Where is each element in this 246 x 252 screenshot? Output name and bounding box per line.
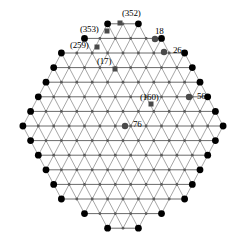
lattice-edge bbox=[131, 184, 139, 199]
lattice-edge bbox=[131, 68, 139, 83]
lattice-edge bbox=[92, 155, 100, 170]
lattice-edge bbox=[154, 82, 162, 97]
interior-vertex bbox=[152, 110, 155, 113]
interior-vertex bbox=[60, 139, 63, 142]
lattice-edge bbox=[169, 53, 177, 68]
lattice-edge bbox=[46, 97, 54, 112]
lattice-edge bbox=[85, 170, 93, 185]
lattice-edge bbox=[154, 111, 162, 126]
interior-vertex bbox=[168, 81, 171, 84]
lattice-edge bbox=[138, 184, 146, 199]
interior-vertex bbox=[168, 110, 171, 113]
lattice-edge bbox=[108, 126, 116, 141]
boundary-vertex bbox=[204, 152, 211, 159]
interior-vertex bbox=[206, 125, 209, 128]
lattice-edge bbox=[146, 82, 154, 97]
lattice-edge bbox=[177, 141, 185, 156]
lattice-edge bbox=[154, 155, 162, 170]
interior-vertex bbox=[91, 168, 94, 171]
interior-vertex bbox=[114, 95, 117, 98]
interior-vertex bbox=[199, 110, 202, 113]
lattice-edge bbox=[61, 155, 69, 170]
lattice-edge bbox=[61, 170, 69, 185]
highlighted-vertex-p26 bbox=[161, 49, 167, 55]
interior-vertex bbox=[99, 183, 102, 186]
lattice-edge bbox=[138, 199, 146, 214]
interior-vertex bbox=[75, 198, 78, 201]
lattice-edge bbox=[115, 199, 123, 214]
lattice-edge bbox=[77, 68, 85, 83]
lattice-edge bbox=[54, 141, 62, 156]
lattice-edge bbox=[131, 141, 139, 156]
lattice-edge bbox=[123, 184, 131, 199]
lattice-edge bbox=[162, 82, 170, 97]
interior-vertex bbox=[99, 37, 102, 40]
lattice-edge bbox=[185, 126, 193, 141]
interior-vertex bbox=[152, 168, 155, 171]
interior-vertex bbox=[168, 198, 171, 201]
interior-vertex bbox=[160, 125, 163, 128]
lattice-graph-svg bbox=[0, 0, 246, 252]
boundary-vertex bbox=[104, 20, 111, 27]
lattice-edge bbox=[154, 141, 162, 156]
boundary-vertex bbox=[197, 79, 204, 86]
lattice-edge bbox=[77, 126, 85, 141]
lattice-edge bbox=[85, 53, 93, 68]
lattice-edge bbox=[108, 170, 116, 185]
lattice-edge bbox=[115, 82, 123, 97]
interior-vertex bbox=[152, 198, 155, 201]
interior-vertex bbox=[114, 183, 117, 186]
lattice-edge bbox=[123, 141, 131, 156]
lattice-edge bbox=[100, 126, 108, 141]
lattice-edge bbox=[162, 68, 170, 83]
boundary-vertex bbox=[58, 196, 65, 203]
highlighted-vertex-p17 bbox=[113, 67, 118, 72]
boundary-vertex bbox=[158, 35, 165, 42]
lattice-edge bbox=[185, 111, 193, 126]
interior-vertex bbox=[75, 168, 78, 171]
lattice-edge bbox=[131, 155, 139, 170]
lattice-edge bbox=[77, 184, 85, 199]
lattice-edge bbox=[108, 111, 116, 126]
interior-vertex bbox=[168, 52, 171, 55]
interior-vertex bbox=[83, 66, 86, 69]
lattice-edge bbox=[123, 199, 131, 214]
lattice-edge bbox=[146, 126, 154, 141]
lattice-edge bbox=[123, 170, 131, 185]
boundary-vertex bbox=[181, 50, 188, 57]
lattice-edge bbox=[154, 170, 162, 185]
interior-vertex bbox=[75, 139, 78, 142]
lattice-edge bbox=[108, 199, 116, 214]
lattice-edge bbox=[177, 111, 185, 126]
lattice-edge bbox=[108, 97, 116, 112]
lattice-edge bbox=[146, 68, 154, 83]
lattice-edge bbox=[192, 141, 200, 156]
interior-vertex bbox=[129, 95, 132, 98]
lattice-edge bbox=[85, 111, 93, 126]
interior-vertex bbox=[122, 139, 125, 142]
lattice-edge bbox=[61, 68, 69, 83]
interior-vertex bbox=[137, 81, 140, 84]
lattice-edge bbox=[123, 68, 131, 83]
lattice-edge bbox=[115, 214, 123, 229]
lattice-edge bbox=[177, 170, 185, 185]
interior-vertex bbox=[52, 95, 55, 98]
interior-vertex bbox=[160, 154, 163, 157]
interior-vertex bbox=[106, 168, 109, 171]
boundary-vertex bbox=[189, 64, 196, 71]
lattice-edge bbox=[77, 141, 85, 156]
interior-vertex bbox=[91, 110, 94, 113]
interior-vertex bbox=[129, 125, 132, 128]
lattice-edge bbox=[200, 126, 208, 141]
lattice-edge bbox=[115, 53, 123, 68]
boundary-vertex bbox=[58, 50, 65, 57]
interior-vertex bbox=[114, 37, 117, 40]
lattice-edge bbox=[108, 53, 116, 68]
lattice-edge bbox=[38, 126, 46, 141]
highlighted-vertex-p352 bbox=[118, 21, 123, 26]
lattice-edge bbox=[192, 111, 200, 126]
lattice-edge bbox=[77, 155, 85, 170]
interior-vertex bbox=[60, 81, 63, 84]
boundary-vertex bbox=[204, 93, 211, 100]
lattice-edge bbox=[61, 97, 69, 112]
